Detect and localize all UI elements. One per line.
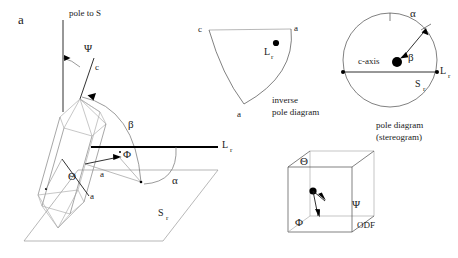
stereogram-title-line2: (stereogram): [376, 132, 422, 142]
stereogram-lr-dot: [435, 70, 439, 74]
pole-to-s-label: pole to S: [69, 8, 101, 18]
crystal-panel: pole to S Ψ c β: [24, 8, 233, 241]
psi-label: Ψ: [84, 42, 93, 54]
crystal-apex-edge-1: [64, 99, 80, 128]
inverse-pole-right-edge: [244, 29, 291, 104]
c-axis-line: [80, 58, 94, 99]
odf-cube-edge-tr: [352, 151, 374, 167]
stereogram-title-line1: pole diagram: [376, 120, 423, 130]
alpha-label: α: [172, 174, 178, 186]
odf-phi-label: Φ: [295, 216, 303, 228]
stereogram-alpha-label: α: [410, 7, 416, 19]
pole-diagram-panel: L r S r c-axis β α pole diagram (stereog…: [341, 7, 451, 142]
a-axis-lower-label: a: [90, 191, 94, 201]
inverse-pole-vertex-a-bottom-label: a: [237, 109, 241, 119]
lr-subscript: r: [230, 146, 233, 154]
phi-label: Φ: [123, 148, 131, 160]
inverse-pole-panel: c a a L r inverse pole diagram: [198, 23, 319, 119]
beta-arrowhead-top: [88, 93, 97, 100]
crystal-bottom-edge-2: [58, 202, 84, 228]
lr-label: L: [222, 139, 228, 150]
beta-label: β: [128, 118, 134, 130]
stereogram-sr-subscript: r: [423, 85, 426, 93]
odf-theta-label: Θ: [300, 155, 308, 167]
stereogram-c-axis-label: c-axis: [358, 56, 380, 66]
stereogram-lr-label: L: [440, 65, 446, 76]
inverse-pole-left-edge: [209, 30, 244, 104]
c-axis-label: c: [95, 62, 99, 72]
inverse-pole-vertex-a-top-label: a: [294, 23, 298, 33]
a-axis-upper-label: a: [100, 169, 104, 179]
panel-letter: a: [18, 12, 24, 27]
plane-sr-label: S: [158, 207, 164, 218]
inverse-pole-top-edge: [209, 29, 291, 30]
odf-panel: Θ Ψ Φ ODF: [288, 151, 375, 232]
crystal-edge-right-front: [84, 124, 106, 202]
odf-psi-label: Ψ: [352, 198, 361, 210]
stereogram-sr-left-dot: [341, 70, 345, 74]
figure-canvas: a pole to S Ψ c β: [0, 0, 458, 258]
alpha-vertex-dot: [140, 181, 143, 184]
odf-title-label: ODF: [357, 220, 375, 230]
construction-line-1: [85, 164, 141, 182]
theta-label: Θ: [68, 170, 76, 182]
crystal-edge-right-back: [78, 112, 100, 190]
reference-plane-sr: [24, 170, 218, 241]
inverse-pole-vertex-c-label: c: [198, 24, 202, 34]
inverse-pole-title-line1: inverse: [272, 95, 298, 105]
inverse-pole-title-line2: pole diagram: [272, 107, 319, 117]
stereogram-beta-label: β: [408, 51, 414, 63]
crystal-apex-edge-4: [80, 99, 100, 112]
stereogram-lr-subscript: r: [448, 72, 451, 80]
crystal-bottom-edge-3: [58, 190, 78, 228]
phi-vertex-dot: [119, 151, 121, 153]
crystallographic-orientation-figure: a pole to S Ψ c β: [0, 0, 458, 258]
a-axis-upper-arrowhead: [113, 154, 122, 160]
plane-sr-subscript: r: [166, 214, 169, 222]
inverse-pole-lr-label: L: [264, 46, 270, 57]
odf-cube-back-face: [310, 151, 374, 216]
stereogram-c-axis-pole: [392, 57, 402, 67]
inverse-pole-lr-subscript: r: [271, 53, 274, 61]
stereogram-sr-label: S: [415, 78, 421, 89]
inverse-pole-lr-point: [273, 40, 279, 46]
